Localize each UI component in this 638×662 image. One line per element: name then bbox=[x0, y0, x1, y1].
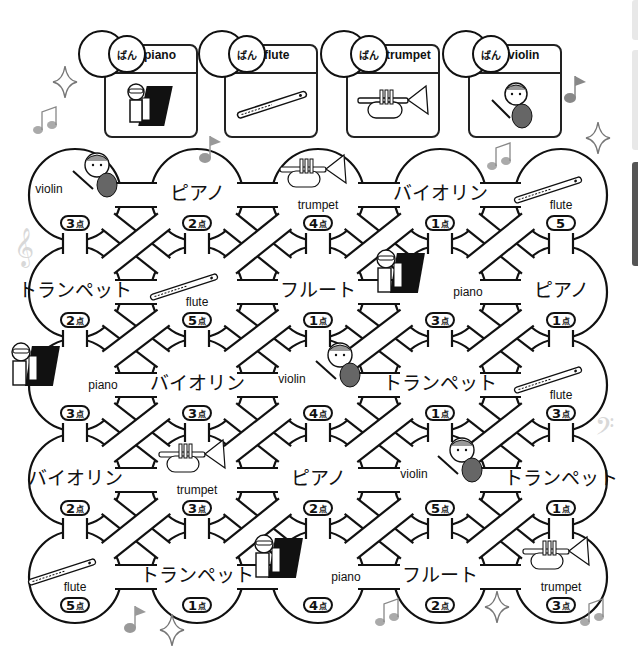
points-badge: 3点 bbox=[546, 597, 576, 613]
instrument-label: violin bbox=[508, 48, 539, 62]
double-note-icon bbox=[33, 107, 57, 134]
points-value: 1 bbox=[431, 406, 440, 421]
points-value: 2 bbox=[309, 501, 318, 516]
points-value: 3 bbox=[188, 406, 197, 421]
points-unit: 点 bbox=[76, 503, 84, 514]
music-note-icon bbox=[564, 76, 586, 103]
trumpet-icon bbox=[278, 151, 348, 201]
violin-girl-icon bbox=[476, 80, 554, 130]
points-badge: 5点 bbox=[425, 500, 455, 516]
points-badge: 2点 bbox=[60, 312, 90, 328]
node-label: フルート bbox=[402, 560, 478, 587]
points-value: 5 bbox=[431, 501, 440, 516]
points-value: 2 bbox=[188, 216, 197, 231]
points-value: 2 bbox=[66, 313, 75, 328]
points-value: 4 bbox=[309, 406, 318, 421]
instrument-label: trumpet bbox=[386, 48, 431, 62]
points-value: 3 bbox=[552, 406, 561, 421]
divider bbox=[346, 72, 440, 74]
treble-clef-icon: 𝄞 bbox=[14, 226, 34, 268]
node-label: piano bbox=[331, 570, 360, 584]
trumpet-icon bbox=[157, 436, 227, 486]
piano-player-icon bbox=[5, 340, 75, 390]
node-label: バイオリン bbox=[150, 368, 245, 395]
points-value: 1 bbox=[552, 313, 561, 328]
points-badge: 1点 bbox=[546, 500, 576, 516]
points-unit: 点 bbox=[441, 315, 449, 326]
points-value: 2 bbox=[431, 598, 440, 613]
side-tab-active[interactable] bbox=[632, 162, 638, 266]
points-unit: 点 bbox=[562, 315, 570, 326]
points-badge: 2点 bbox=[60, 500, 90, 516]
points-badge: 2点 bbox=[303, 500, 333, 516]
node-label: フルート bbox=[280, 275, 356, 302]
flute-icon bbox=[27, 547, 97, 597]
violin-girl-icon bbox=[310, 339, 380, 389]
legend-card-trumpet: ばん trumpet bbox=[320, 30, 437, 135]
points-value: 4 bbox=[309, 598, 318, 613]
points-unit: 点 bbox=[198, 315, 206, 326]
side-tab[interactable] bbox=[632, 50, 638, 150]
points-unit: 点 bbox=[198, 503, 206, 514]
points-badge: 5 bbox=[546, 215, 576, 231]
points-unit: 点 bbox=[76, 600, 84, 611]
points-value: 3 bbox=[552, 598, 561, 613]
points-unit: 点 bbox=[562, 600, 570, 611]
points-value: 5 bbox=[188, 313, 197, 328]
flute-icon bbox=[149, 262, 219, 312]
points-badge: 4点 bbox=[303, 597, 333, 613]
flute-icon bbox=[513, 165, 583, 215]
ban-label: ばん bbox=[350, 35, 388, 73]
points-unit: 点 bbox=[319, 503, 327, 514]
points-value: 3 bbox=[431, 313, 440, 328]
points-value: 3 bbox=[66, 406, 75, 421]
ban-label: ばん bbox=[472, 35, 510, 73]
music-note-icon bbox=[124, 606, 146, 633]
points-badge: 3点 bbox=[60, 215, 90, 231]
points-unit: 点 bbox=[319, 218, 327, 229]
points-unit: 点 bbox=[319, 315, 327, 326]
violin-girl-icon bbox=[67, 149, 137, 199]
legend-card-piano: ばん piano bbox=[78, 30, 195, 135]
piano-player-icon bbox=[248, 532, 318, 582]
points-badge: 1点 bbox=[303, 312, 333, 328]
node-label: バイオリン bbox=[393, 178, 488, 205]
points-badge: 5点 bbox=[60, 597, 90, 613]
points-unit: 点 bbox=[319, 408, 327, 419]
double-note-icon bbox=[375, 599, 399, 626]
sparkle-icon bbox=[586, 122, 610, 154]
node-label: violin bbox=[278, 372, 305, 386]
points-badge: 3点 bbox=[182, 500, 212, 516]
instrument-label: piano bbox=[144, 48, 176, 62]
instrument-label: flute bbox=[264, 48, 289, 62]
points-value: 3 bbox=[66, 216, 75, 231]
trumpet-icon bbox=[354, 80, 432, 130]
divider bbox=[224, 72, 318, 74]
node-label: violin bbox=[400, 467, 427, 481]
points-badge: 3点 bbox=[60, 405, 90, 421]
bass-clef-icon: 𝄢 bbox=[595, 412, 614, 447]
node-label: トランペット bbox=[140, 560, 254, 587]
points-badge: 3点 bbox=[425, 312, 455, 328]
side-tab[interactable] bbox=[632, 0, 638, 40]
node-label: バイオリン bbox=[28, 463, 123, 490]
double-note-icon bbox=[487, 143, 511, 170]
points-value: 1 bbox=[431, 216, 440, 231]
points-badge: 1点 bbox=[182, 597, 212, 613]
points-badge: 2点 bbox=[182, 215, 212, 231]
points-value: 5 bbox=[66, 598, 75, 613]
ban-label: ばん bbox=[108, 35, 146, 73]
points-badge: 1点 bbox=[425, 405, 455, 421]
points-value: 1 bbox=[309, 313, 318, 328]
points-unit: 点 bbox=[198, 218, 206, 229]
node-label: ピアノ bbox=[291, 463, 346, 490]
node-label: ピアノ bbox=[534, 275, 589, 302]
node-label: トランペット bbox=[18, 275, 132, 302]
points-value: 4 bbox=[309, 216, 318, 231]
points-badge: 3点 bbox=[182, 405, 212, 421]
flute-icon bbox=[513, 355, 583, 405]
sparkle-icon bbox=[53, 66, 77, 98]
legend-card-flute: ばん flute bbox=[198, 30, 315, 135]
points-value: 1 bbox=[188, 598, 197, 613]
maze-worksheet: 𝄞𝄢 ばん piano ばん flute bbox=[0, 0, 638, 662]
